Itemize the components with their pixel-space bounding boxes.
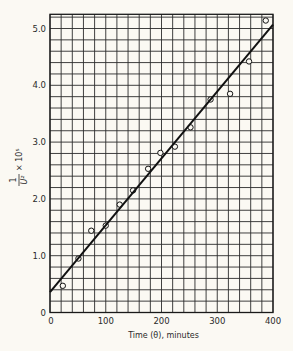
data-point — [158, 150, 163, 155]
x-axis-ticks: 0100200300400 — [48, 316, 281, 326]
y-axis-label: 1U²× 10⁵ — [9, 148, 29, 186]
grid-lines — [50, 14, 273, 312]
x-axis-label: Time (θ), minutes — [127, 331, 199, 340]
x-tick-label: 200 — [153, 316, 169, 326]
y-tick-label: 5.0 — [32, 24, 46, 34]
y-tick-label: 3.0 — [32, 137, 46, 147]
data-point — [227, 91, 232, 96]
x-tick-label: 0 — [48, 316, 53, 326]
x-tick-label: 300 — [209, 316, 225, 326]
x-tick-label: 100 — [98, 316, 114, 326]
data-point — [246, 59, 251, 64]
y-axis-ticks: 01.02.03.04.05.0 — [32, 24, 46, 318]
y-tick-label: 2.0 — [32, 194, 46, 204]
y-label-numerator: 1 — [9, 177, 18, 182]
data-point — [60, 283, 65, 288]
data-point — [263, 18, 268, 23]
x-tick-label: 400 — [265, 316, 281, 326]
y-label-denominator: U² — [20, 175, 29, 185]
y-tick-label: 4.0 — [32, 80, 46, 90]
y-tick-label: 0 — [41, 308, 46, 318]
y-label-multiplier: × 10⁵ — [15, 148, 24, 171]
y-tick-label: 1.0 — [32, 251, 46, 261]
data-point — [89, 228, 94, 233]
chart: 0100200300400 01.02.03.04.05.0 Time (θ),… — [0, 0, 293, 351]
